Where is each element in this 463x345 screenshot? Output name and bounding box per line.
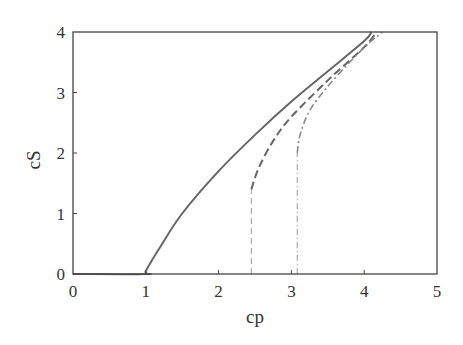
y-tick-label: 2: [57, 144, 66, 163]
series-dashed: [251, 32, 376, 189]
x-tick-label: 3: [287, 282, 296, 301]
y-tick-label: 4: [57, 23, 66, 42]
y-tick-label: 0: [57, 265, 66, 284]
y-tick-label: 1: [57, 205, 66, 224]
series-dash-dot: [297, 32, 382, 153]
x-axis-label: cp: [246, 306, 264, 327]
x-tick-label: 1: [142, 282, 151, 301]
x-tick-label: 5: [433, 282, 442, 301]
y-tick-label: 3: [57, 84, 66, 103]
y-axis-label: cS: [23, 151, 44, 170]
series-solid: [73, 32, 371, 274]
series-layer: [73, 32, 382, 274]
plot-frame: [73, 32, 437, 274]
x-tick-label: 2: [214, 282, 223, 301]
ticks-layer: 01234501234: [57, 23, 442, 301]
x-tick-label: 4: [360, 282, 369, 301]
chart: 01234501234 cp cS: [0, 0, 463, 345]
x-tick-label: 0: [69, 282, 78, 301]
